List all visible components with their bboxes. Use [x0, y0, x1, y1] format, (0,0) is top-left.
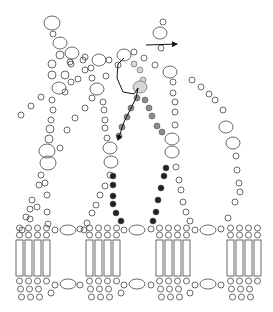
helix-rect — [43, 240, 50, 276]
residue-bead — [64, 127, 70, 133]
lipid-head — [157, 225, 163, 231]
lipid-head — [168, 294, 174, 300]
lipid-head — [184, 232, 190, 238]
residue-bead — [102, 125, 108, 131]
helix-rect — [113, 240, 120, 276]
residue-bead — [36, 182, 42, 188]
residue-bead — [42, 180, 48, 186]
lipid-head — [17, 278, 23, 284]
lipid-head — [177, 294, 183, 300]
highlighted-residue — [142, 97, 148, 103]
residue-bead — [103, 142, 117, 154]
residue-bead — [62, 89, 68, 95]
residue-bead — [48, 117, 54, 123]
lipid-head — [87, 278, 93, 284]
highlighted-dark — [110, 165, 169, 224]
residue-bead — [117, 49, 131, 61]
lipid-head — [19, 294, 25, 300]
membrane-helix-bundle — [156, 225, 190, 300]
residue-bead — [100, 99, 106, 105]
membrane-bead — [121, 282, 127, 288]
residue-bead — [48, 71, 56, 79]
lipid-head — [184, 225, 190, 231]
helix-rect — [183, 240, 190, 276]
membrane-bead — [77, 282, 83, 288]
residue-bead — [89, 95, 95, 101]
residue-bead — [90, 83, 104, 95]
lipid-head — [157, 278, 163, 284]
residue-bead — [141, 55, 147, 61]
lipid-head — [87, 225, 93, 231]
membrane-ellipse — [129, 225, 145, 235]
lipid-head — [228, 232, 234, 238]
residue-bead — [103, 73, 109, 79]
lipid-head — [96, 232, 102, 238]
lipid-head — [237, 232, 243, 238]
membrane-helix-bundle — [227, 225, 261, 300]
helix-rect — [174, 240, 181, 276]
lipid-head — [248, 294, 254, 300]
lipid-head — [106, 286, 112, 292]
residue-bead — [176, 177, 182, 183]
membrane-bead — [121, 227, 127, 233]
lipid-head — [105, 232, 111, 238]
membrane-bead — [48, 290, 54, 296]
residue-bead — [106, 57, 112, 63]
residue-bead — [44, 209, 50, 215]
membrane-bead — [77, 226, 83, 232]
residue-bead — [45, 135, 53, 143]
lipid-head — [247, 286, 253, 292]
residue-bead — [212, 97, 218, 103]
lipid-head — [26, 232, 32, 238]
lipid-head — [27, 286, 33, 292]
chain-center-right — [115, 19, 193, 224]
residue-bead — [170, 79, 176, 85]
lipid-head — [175, 278, 181, 284]
residue-bead — [170, 90, 176, 96]
residue-bead — [34, 204, 40, 210]
lipid-head — [37, 294, 43, 300]
highlighted-residue — [113, 210, 119, 216]
highlighted-residue — [163, 165, 169, 171]
helix-rect — [25, 240, 32, 276]
residue-bead — [187, 218, 193, 224]
lipid-head — [255, 225, 261, 231]
membrane-bead — [218, 226, 224, 232]
lipid-head — [114, 232, 120, 238]
residue-bead — [44, 192, 50, 198]
residue-bead — [232, 199, 238, 205]
residue-bead — [233, 153, 239, 159]
lipid-head — [44, 278, 50, 284]
residue-bead — [172, 99, 178, 105]
residue-bead — [53, 37, 67, 49]
highlighted-residues — [110, 61, 169, 224]
lipid-head — [88, 286, 94, 292]
lipid-head — [159, 294, 165, 300]
membrane-bead — [187, 290, 193, 296]
residue-bead — [72, 115, 78, 121]
helix-rect — [34, 240, 41, 276]
lipid-head — [96, 278, 102, 284]
residue-bead — [82, 67, 88, 73]
lipid-head — [176, 286, 182, 292]
residue-bead — [56, 51, 64, 59]
helix-rect — [245, 240, 252, 276]
residue-bead — [172, 109, 178, 115]
highlighted-residue — [137, 67, 143, 73]
highlighted-residue — [159, 129, 165, 135]
highlighted-residue — [149, 113, 155, 119]
chain-left-outer — [23, 16, 79, 227]
lipid-head — [35, 232, 41, 238]
lipid-head — [246, 278, 252, 284]
residue-bead — [219, 121, 233, 133]
residue-bead — [29, 197, 35, 203]
residue-bead — [89, 210, 95, 216]
highlighted-residue — [110, 173, 116, 179]
peptide-chains — [18, 16, 243, 233]
residue-bead — [52, 82, 66, 94]
residue-bead — [49, 97, 55, 103]
lipid-head — [166, 232, 172, 238]
lipid-head — [35, 225, 41, 231]
helix-rect — [95, 240, 102, 276]
lipid-head — [87, 232, 93, 238]
